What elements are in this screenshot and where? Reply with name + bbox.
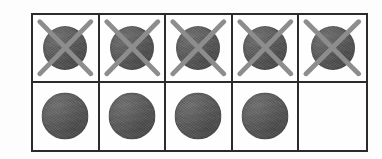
token-r1c2 (110, 26, 154, 70)
grid-cell-r2c3[interactable] (166, 83, 233, 151)
token-r2c2 (108, 93, 155, 140)
counting-grid (31, 13, 368, 152)
token-r2c3 (175, 93, 222, 140)
grid-cell-r1c4[interactable] (233, 15, 300, 83)
grid-cell-r2c5[interactable] (299, 83, 366, 151)
token-r1c3 (176, 26, 220, 70)
token-r1c4 (243, 26, 287, 70)
token-r1c5 (311, 26, 355, 70)
grid-cell-r1c1[interactable] (33, 15, 100, 83)
token-r2c4 (242, 93, 289, 140)
grid-cell-r2c1[interactable] (33, 83, 100, 151)
grid-cell-r2c4[interactable] (233, 83, 300, 151)
grid-cell-r1c3[interactable] (166, 15, 233, 83)
empty-slot (299, 83, 366, 151)
grid-cell-r1c5[interactable] (299, 15, 366, 83)
token-r2c1 (42, 93, 89, 140)
grid-cell-r2c2[interactable] (100, 83, 167, 151)
grid-cell-r1c2[interactable] (100, 15, 167, 83)
token-r1c1 (43, 26, 87, 70)
figure-canvas (0, 0, 382, 159)
